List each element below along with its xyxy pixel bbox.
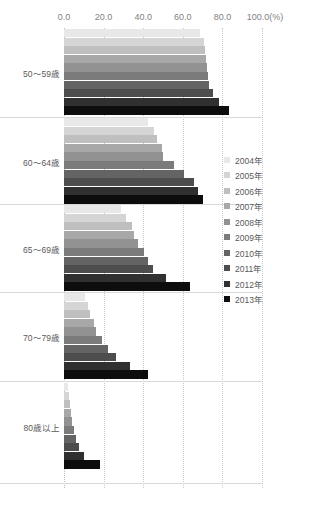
bar-4-5 xyxy=(64,426,74,434)
axis-baseline xyxy=(0,483,262,484)
legend-label: 2009年 xyxy=(235,231,263,243)
legend-label: 2011年 xyxy=(235,262,262,274)
legend-label: 2010年 xyxy=(235,247,263,259)
bar-3-6 xyxy=(64,345,108,353)
bar-1-7 xyxy=(64,178,194,186)
bar-4-7 xyxy=(64,443,79,451)
bar-4-2 xyxy=(64,400,70,408)
category-label-4: 80歳以上 xyxy=(2,421,60,433)
bar-4-0 xyxy=(64,383,68,391)
legend-swatch-icon xyxy=(224,219,230,225)
group-separator xyxy=(0,381,262,382)
bar-2-9 xyxy=(64,282,190,290)
x-tick-label-40-0: 40.0 xyxy=(134,12,152,22)
x-tick-label-0-0: 0.0 xyxy=(58,12,71,22)
bar-0-2 xyxy=(64,46,205,54)
x-tick-label-20-0: 20.0 xyxy=(95,12,113,22)
legend-swatch-icon xyxy=(224,265,230,271)
legend-label: 2006年 xyxy=(235,185,263,197)
bar-2-7 xyxy=(64,265,153,273)
bar-4-9 xyxy=(64,460,100,468)
bar-0-4 xyxy=(64,63,207,71)
bar-1-6 xyxy=(64,170,184,178)
category-label-1: 60～64歳 xyxy=(2,156,60,168)
legend-label: 2012年 xyxy=(235,278,263,290)
bar-2-8 xyxy=(64,274,166,282)
legend-swatch-icon xyxy=(224,188,230,194)
legend-swatch-icon xyxy=(224,203,230,209)
x-tick-label-80-0: 80.0 xyxy=(214,12,232,22)
legend-label: 2013年 xyxy=(235,293,263,305)
bar-1-5 xyxy=(64,161,174,169)
bar-4-8 xyxy=(64,452,84,460)
legend-swatch-icon xyxy=(224,157,230,163)
legend-item-2010年[interactable]: 2010年 xyxy=(224,245,312,261)
group-separator xyxy=(0,292,262,293)
bar-0-7 xyxy=(64,89,213,97)
legend-item-2007年[interactable]: 2007年 xyxy=(224,199,312,215)
bar-0-1 xyxy=(64,38,204,46)
legend-swatch-icon xyxy=(224,250,230,256)
bar-3-5 xyxy=(64,336,102,344)
legend-item-2008年[interactable]: 2008年 xyxy=(224,214,312,230)
bar-0-0 xyxy=(64,29,200,37)
bar-0-9 xyxy=(64,106,229,114)
legend-label: 2007年 xyxy=(235,200,263,212)
legend-item-2005年[interactable]: 2005年 xyxy=(224,168,312,184)
bar-2-6 xyxy=(64,257,148,265)
bar-2-4 xyxy=(64,239,138,247)
legend-swatch-icon xyxy=(224,296,230,302)
bar-0-6 xyxy=(64,81,209,89)
legend-label: 2005年 xyxy=(235,169,263,181)
legend-item-2013年[interactable]: 2013年 xyxy=(224,292,312,308)
bar-0-5 xyxy=(64,72,208,80)
bar-4-3 xyxy=(64,409,71,417)
bar-2-0 xyxy=(64,205,121,213)
bar-2-3 xyxy=(64,231,134,239)
legend-label: 2008年 xyxy=(235,216,263,228)
bar-4-1 xyxy=(64,392,69,400)
bar-3-9 xyxy=(64,370,148,378)
legend-item-2004年[interactable]: 2004年 xyxy=(224,152,312,168)
legend-label: 2004年 xyxy=(235,154,263,166)
bar-1-4 xyxy=(64,152,163,160)
category-label-2: 65～69歳 xyxy=(2,243,60,255)
x-axis-tick-labels: 0.020.040.060.080.0100.0(%) xyxy=(0,12,313,26)
bar-1-3 xyxy=(64,144,162,152)
legend-item-2012年[interactable]: 2012年 xyxy=(224,276,312,292)
group-separator xyxy=(0,204,262,205)
legend-item-2011年[interactable]: 2011年 xyxy=(224,261,312,277)
bar-1-2 xyxy=(64,135,157,143)
category-label-3: 70～79歳 xyxy=(2,331,60,343)
bar-3-8 xyxy=(64,362,130,370)
legend-item-2006年[interactable]: 2006年 xyxy=(224,183,312,199)
bar-3-4 xyxy=(64,327,96,335)
bar-2-5 xyxy=(64,248,144,256)
bar-2-2 xyxy=(64,222,132,230)
bar-3-0 xyxy=(64,293,85,301)
legend-swatch-icon xyxy=(224,281,230,287)
bar-0-8 xyxy=(64,98,219,106)
legend-swatch-icon xyxy=(224,234,230,240)
x-tick-label-60-0: 60.0 xyxy=(174,12,192,22)
bar-3-7 xyxy=(64,353,116,361)
bar-2-1 xyxy=(64,214,126,222)
bar-0-3 xyxy=(64,55,206,63)
legend-swatch-icon xyxy=(224,172,230,178)
bar-1-0 xyxy=(64,118,148,126)
category-label-0: 50～59歳 xyxy=(2,67,60,79)
bar-1-1 xyxy=(64,127,154,135)
bar-3-2 xyxy=(64,310,90,318)
legend: 2004年2005年2006年2007年2008年2009年2010年2011年… xyxy=(224,152,312,307)
bar-4-6 xyxy=(64,435,76,443)
bar-1-9 xyxy=(64,195,203,203)
bar-4-4 xyxy=(64,417,72,425)
x-tick-label-100-0: 100.0(%) xyxy=(247,12,284,22)
legend-item-2009年[interactable]: 2009年 xyxy=(224,230,312,246)
chart-root: 0.020.040.060.080.0100.0(%) 50～59歳60～64歳… xyxy=(0,0,313,507)
bar-3-1 xyxy=(64,302,88,310)
bar-1-8 xyxy=(64,187,198,195)
bar-3-3 xyxy=(64,319,94,327)
